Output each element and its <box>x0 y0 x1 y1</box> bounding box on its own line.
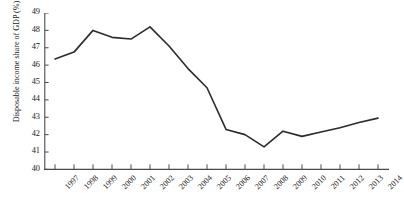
x-tick-label: 2008 <box>273 174 290 191</box>
x-tick-label: 2001 <box>140 174 157 191</box>
x-tick-label: 1997 <box>64 174 81 191</box>
x-tick-label: 2010 <box>311 174 328 191</box>
x-tick-label: 2006 <box>235 174 252 191</box>
x-tick-label: 1999 <box>102 174 119 191</box>
x-tick-label: 2011 <box>330 174 347 191</box>
x-tick-label: 2014 <box>387 174 404 191</box>
x-tick-label: 2009 <box>292 174 309 191</box>
x-tick-label: 2004 <box>197 174 214 191</box>
x-tick-label: 2005 <box>216 174 233 191</box>
x-tick-label: 2003 <box>178 174 195 191</box>
x-tick-label: 2013 <box>368 174 385 191</box>
x-tick-label: 1998 <box>83 174 100 191</box>
x-tick-label: 2007 <box>254 174 271 191</box>
x-tick-label: 2000 <box>121 174 138 191</box>
x-tick-label: 2002 <box>159 174 176 191</box>
x-tick-label: 2012 <box>349 174 366 191</box>
